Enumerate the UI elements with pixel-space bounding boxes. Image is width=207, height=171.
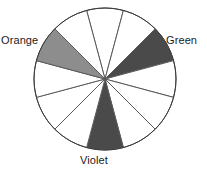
label-green: Green [166,35,197,46]
color-wheel-figure: Orange Green Violet [0,0,207,171]
label-violet: Violet [80,155,108,166]
label-orange: Orange [1,35,38,46]
color-wheel-graphic [0,0,207,171]
wheel-segment-group [34,8,176,150]
